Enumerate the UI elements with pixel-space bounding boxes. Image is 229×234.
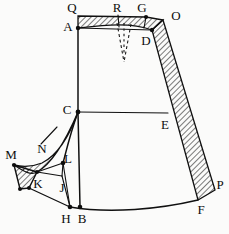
label-B: B	[78, 211, 87, 226]
label-M: M	[5, 147, 17, 162]
label-N: N	[37, 141, 47, 156]
label-O: O	[171, 8, 180, 23]
label-Q: Q	[67, 0, 77, 15]
point-dot-B	[78, 205, 83, 210]
label-P: P	[216, 177, 223, 192]
label-J: J	[59, 180, 64, 195]
label-D: D	[141, 33, 150, 48]
label-E: E	[161, 117, 169, 132]
center-front-c-b	[78, 112, 80, 207]
point-dot-A	[76, 26, 80, 30]
label-K: K	[33, 176, 43, 191]
point-dot-K	[35, 170, 39, 174]
point-dot-G	[144, 15, 148, 19]
hem-curve	[70, 200, 198, 210]
point-dot-C	[76, 110, 81, 115]
label-R: R	[113, 0, 122, 15]
construction-lines	[29, 15, 198, 210]
pattern-draft-svg: Q R G O A D C E M N L K J H B F P	[0, 0, 229, 234]
point-dot-K2	[18, 187, 22, 191]
point-dot-M	[12, 163, 16, 167]
drawing-canvas: Q R G O A D C E M N L K J H B F P	[0, 0, 229, 234]
waist-to-hip-line-c-e	[78, 112, 168, 113]
point-dot-H	[68, 205, 73, 210]
point-dot-D	[150, 28, 154, 32]
label-F: F	[197, 202, 204, 217]
label-A: A	[63, 19, 73, 34]
hatched-regions	[14, 16, 215, 200]
side-band-hatch	[152, 20, 215, 200]
label-C: C	[63, 102, 72, 117]
label-G: G	[137, 0, 146, 15]
label-H: H	[61, 211, 70, 226]
line-a-to-d	[78, 28, 152, 30]
label-L: L	[64, 151, 72, 166]
point-dot-K3	[27, 186, 31, 190]
